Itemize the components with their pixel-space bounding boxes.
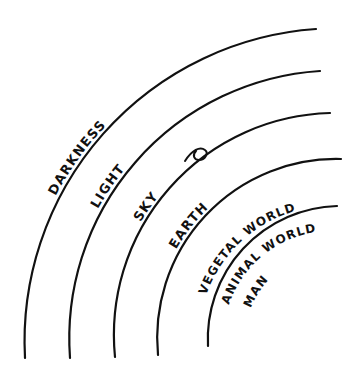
ring-label-light-text: LIGHT — [87, 161, 127, 210]
concentric-arcs-diagram: DARKNESS LIGHT SKY EARTH VEGETAL WORLD A… — [0, 0, 364, 376]
ring-label-light: LIGHT — [87, 161, 127, 210]
ring-label-group: DARKNESS LIGHT SKY EARTH VEGETAL WORLD A… — [45, 117, 318, 310]
ring-label-vegetal-world: VEGETAL WORLD — [196, 200, 298, 296]
ring-label-sky-text: SKY — [130, 189, 161, 224]
arc-group — [25, 29, 341, 358]
ring-label-earth-text: EARTH — [166, 199, 211, 251]
ring-label-sky: SKY — [130, 189, 161, 224]
ring-label-earth: EARTH — [166, 199, 211, 251]
earth-swash-icon — [185, 148, 207, 161]
diagram-canvas: DARKNESS LIGHT SKY EARTH VEGETAL WORLD A… — [0, 0, 364, 376]
ring-label-vegetal-world-text: VEGETAL WORLD — [196, 200, 298, 296]
arc-vegetal-world — [208, 206, 337, 346]
